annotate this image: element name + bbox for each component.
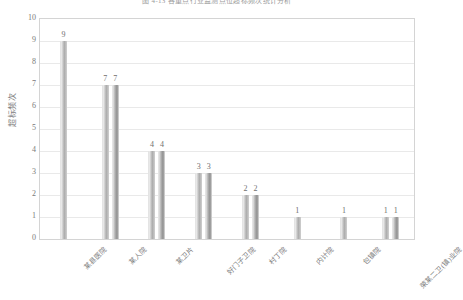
bar-item: 1 — [382, 19, 389, 239]
x-tick-label: 内计院 — [313, 244, 335, 266]
bar-value-label: 1 — [342, 207, 346, 215]
y-axis-tick-labels: 012345678910 — [0, 18, 36, 240]
bar-group: 1 — [274, 19, 321, 239]
y-tick-label: 0 — [2, 234, 36, 242]
y-tick-label: 9 — [2, 36, 36, 44]
x-tick-label: 某人院 — [126, 244, 148, 266]
x-tick-label: 某卫片 — [173, 244, 195, 266]
bar-group: 1 — [321, 19, 368, 239]
bar-group: 33 — [180, 19, 227, 239]
bar-value-label: 1 — [394, 207, 398, 215]
chart-title: 图 4-13 各重点行业监测点位超标频次统计分析 — [0, 0, 434, 6]
bar-value-label: 7 — [113, 75, 117, 83]
bars-container: 9774433221111 — [40, 19, 414, 239]
bar-item: 7 — [112, 19, 119, 239]
bar-value-label: 1 — [384, 207, 388, 215]
x-tick-label: 好门子卫院 — [224, 244, 257, 277]
bar[interactable] — [148, 151, 155, 239]
bar-item: 3 — [195, 19, 202, 239]
bar[interactable] — [252, 195, 259, 239]
bar[interactable] — [60, 41, 67, 239]
bar-item: 2 — [252, 19, 259, 239]
bar-group: 9 — [40, 19, 87, 239]
bar-value-label: 4 — [160, 141, 164, 149]
bar[interactable] — [340, 217, 347, 239]
bar-group: 22 — [227, 19, 274, 239]
y-tick-label: 10 — [2, 14, 36, 22]
y-tick-label: 1 — [2, 212, 36, 220]
bar-item: 3 — [205, 19, 212, 239]
bar[interactable] — [294, 217, 301, 239]
bar-group: 44 — [134, 19, 181, 239]
y-tick-label: 3 — [2, 168, 36, 176]
y-tick-label: 4 — [2, 146, 36, 154]
bar-group: 11 — [367, 19, 414, 239]
y-tick-label: 5 — [2, 124, 36, 132]
x-tick-label: 村丁院 — [267, 244, 289, 266]
bar-value-label: 1 — [295, 207, 299, 215]
bar-item: 4 — [148, 19, 155, 239]
bar-item: 4 — [158, 19, 165, 239]
bar[interactable] — [158, 151, 165, 239]
y-tick-label: 2 — [2, 190, 36, 198]
bar-value-label: 9 — [61, 31, 65, 39]
bar-value-label: 7 — [103, 75, 107, 83]
x-axis-tick-labels: 某县医院某人院某卫片好门子卫院村丁院内计院包镇院荣某二卫(镇)业院 — [40, 242, 414, 300]
x-tick-label: 包镇院 — [360, 244, 382, 266]
bar[interactable] — [242, 195, 249, 239]
bar[interactable] — [382, 217, 389, 239]
x-tick-label: 某县医院 — [82, 244, 109, 271]
bar-item: 2 — [242, 19, 249, 239]
bar-value-label: 3 — [207, 163, 211, 171]
bar-value-label: 2 — [243, 185, 247, 193]
bar-item: 1 — [294, 19, 301, 239]
bar[interactable] — [205, 173, 212, 239]
bar[interactable] — [195, 173, 202, 239]
bar-item: 7 — [102, 19, 109, 239]
y-tick-label: 6 — [2, 102, 36, 110]
bar-value-label: 2 — [253, 185, 257, 193]
bar-value-label: 3 — [197, 163, 201, 171]
bar[interactable] — [102, 85, 109, 239]
bar-item: 9 — [60, 19, 67, 239]
y-tick-label: 7 — [2, 80, 36, 88]
bar-group: 77 — [87, 19, 134, 239]
x-tick-label: 荣某二卫(镇)业院 — [417, 244, 463, 290]
bar-item: 1 — [392, 19, 399, 239]
y-tick-label: 8 — [2, 58, 36, 66]
bar-value-label: 4 — [150, 141, 154, 149]
bar[interactable] — [112, 85, 119, 239]
bar[interactable] — [392, 217, 399, 239]
bar-item: 1 — [340, 19, 347, 239]
